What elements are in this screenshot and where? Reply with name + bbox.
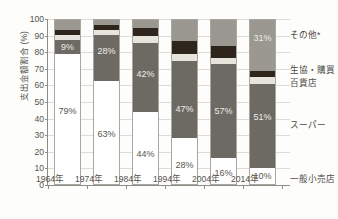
bar-1984[interactable]: 42% 44% bbox=[132, 19, 159, 185]
ytick-90: 90 bbox=[20, 31, 48, 41]
xtickmark-2 bbox=[126, 185, 127, 189]
bar-1964[interactable]: 9% 79% bbox=[54, 19, 81, 185]
segment-other-1964[interactable] bbox=[55, 20, 80, 30]
segment-coop-2004[interactable] bbox=[211, 46, 236, 57]
value-label-other-2014: 31% bbox=[251, 34, 274, 43]
bar-1974[interactable]: 28% 63% bbox=[93, 19, 120, 185]
segment-super-2004[interactable]: 57% bbox=[211, 64, 236, 157]
segment-coop-1984[interactable] bbox=[133, 28, 158, 36]
ytick-70: 70 bbox=[20, 64, 48, 74]
xtickmark-3 bbox=[165, 185, 166, 189]
ytick-60: 60 bbox=[20, 80, 48, 90]
value-label-general-1994: 28% bbox=[173, 160, 196, 169]
segment-super-2014[interactable]: 51% bbox=[250, 84, 275, 168]
ytick-100: 100 bbox=[20, 14, 48, 24]
bar-1994[interactable]: 47% 28% bbox=[171, 19, 198, 185]
ytick-40: 40 bbox=[20, 114, 48, 124]
bar-2004[interactable]: 57% 16% bbox=[210, 19, 237, 185]
legend-label-other: その他* bbox=[290, 30, 320, 40]
value-label-super-2014: 51% bbox=[251, 113, 274, 122]
xtickmark-1 bbox=[87, 185, 88, 189]
ytick-50: 50 bbox=[20, 97, 48, 107]
value-label-super-1994: 47% bbox=[173, 104, 196, 113]
value-label-super-1984: 42% bbox=[134, 69, 157, 78]
xtickmark-5 bbox=[243, 185, 244, 189]
xtickmark-6 bbox=[282, 185, 283, 189]
value-label-super-1964: 9% bbox=[56, 43, 79, 52]
ytick-20: 20 bbox=[20, 147, 48, 157]
segment-other-2014[interactable]: 31% bbox=[250, 20, 275, 71]
value-label-general-1984: 44% bbox=[134, 149, 157, 158]
segment-super-1984[interactable]: 42% bbox=[133, 43, 158, 112]
segment-other-1994[interactable] bbox=[172, 20, 197, 41]
legend-label-coop: 生協・購買 bbox=[290, 65, 335, 75]
chart-canvas: 支出金額割合 (%) 100 90 80 70 60 50 40 30 20 1… bbox=[0, 0, 338, 219]
segment-other-2004[interactable] bbox=[211, 20, 236, 46]
segment-coop-1994[interactable] bbox=[172, 41, 197, 54]
bar-2014[interactable]: 31% 51% 10% bbox=[249, 19, 276, 185]
segment-general-1964[interactable]: 79% bbox=[55, 54, 80, 184]
xtickmark-4 bbox=[204, 185, 205, 189]
value-label-general-1964: 79% bbox=[56, 107, 79, 116]
segment-super-1994[interactable]: 47% bbox=[172, 61, 197, 138]
legend-label-general: 一般小売店 bbox=[290, 174, 335, 184]
plot-area: 100 90 80 70 60 50 40 30 20 10 0 bbox=[47, 19, 290, 186]
segment-super-1964[interactable]: 9% bbox=[55, 40, 80, 55]
value-label-super-2004: 57% bbox=[212, 106, 235, 115]
xlabel-2014: 2014年 bbox=[215, 172, 275, 184]
value-label-super-1974: 28% bbox=[95, 46, 118, 55]
xtickmark-0 bbox=[48, 185, 49, 189]
segment-general-1974[interactable]: 63% bbox=[94, 81, 119, 184]
segment-super-1974[interactable]: 28% bbox=[94, 35, 119, 81]
legend-label-department: 百貨店 bbox=[290, 78, 317, 88]
ytick-80: 80 bbox=[20, 47, 48, 57]
legend-label-super: スーパー bbox=[290, 120, 326, 130]
ytick-30: 30 bbox=[20, 130, 48, 140]
segment-other-1984[interactable] bbox=[133, 20, 158, 28]
value-label-general-1974: 63% bbox=[95, 130, 118, 139]
